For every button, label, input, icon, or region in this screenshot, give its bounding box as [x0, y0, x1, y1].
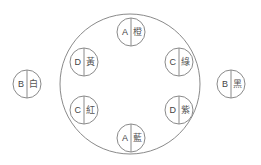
- outer-node-left: B白: [13, 70, 41, 98]
- inner-node: C紅: [70, 96, 98, 124]
- inner-node: C綠: [165, 48, 193, 76]
- node-letter: B: [222, 79, 228, 89]
- node-letter: A: [122, 133, 128, 143]
- node-letter: C: [75, 105, 82, 115]
- node-letter: A: [122, 27, 128, 37]
- node-character: 綠: [181, 56, 190, 67]
- inner-node: A橙: [117, 18, 145, 46]
- diagram-canvas: A橙C綠D紫A藍C紅D黃B白B黑: [0, 0, 261, 165]
- inner-node: D紫: [165, 96, 193, 124]
- node-letter: C: [170, 57, 177, 67]
- node-character: 橙: [133, 26, 142, 37]
- node-character: 藍: [133, 132, 142, 143]
- outer-node-right: B黑: [217, 70, 245, 98]
- node-letter: B: [18, 79, 24, 89]
- node-character: 白: [29, 78, 38, 89]
- node-character: 黃: [86, 56, 95, 67]
- node-letter: D: [75, 57, 82, 67]
- node-character: 黑: [233, 79, 242, 89]
- nodes-layer: A橙C綠D紫A藍C紅D黃B白B黑: [13, 18, 245, 152]
- inner-node: A藍: [117, 124, 145, 152]
- node-letter: D: [170, 105, 177, 115]
- node-character: 紫: [181, 105, 190, 115]
- inner-node: D黃: [70, 48, 98, 76]
- node-character: 紅: [86, 105, 95, 115]
